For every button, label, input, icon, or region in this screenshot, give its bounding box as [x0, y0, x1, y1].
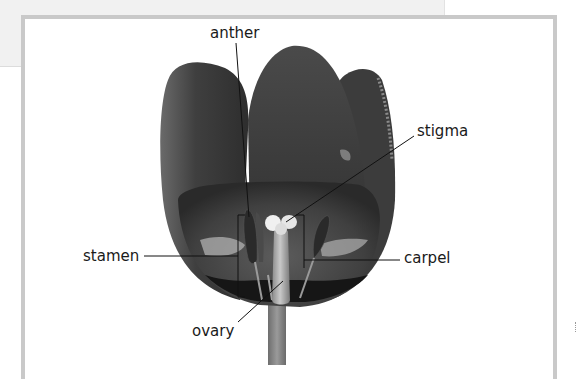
label-ovary: ovary	[192, 324, 234, 339]
label-stigma: stigma	[417, 124, 468, 139]
pistil	[272, 229, 290, 305]
stem	[268, 305, 286, 365]
edge-artifact	[575, 322, 578, 332]
label-stamen: stamen	[83, 249, 139, 264]
label-carpel: carpel	[404, 251, 451, 266]
label-anther: anther	[210, 26, 259, 41]
